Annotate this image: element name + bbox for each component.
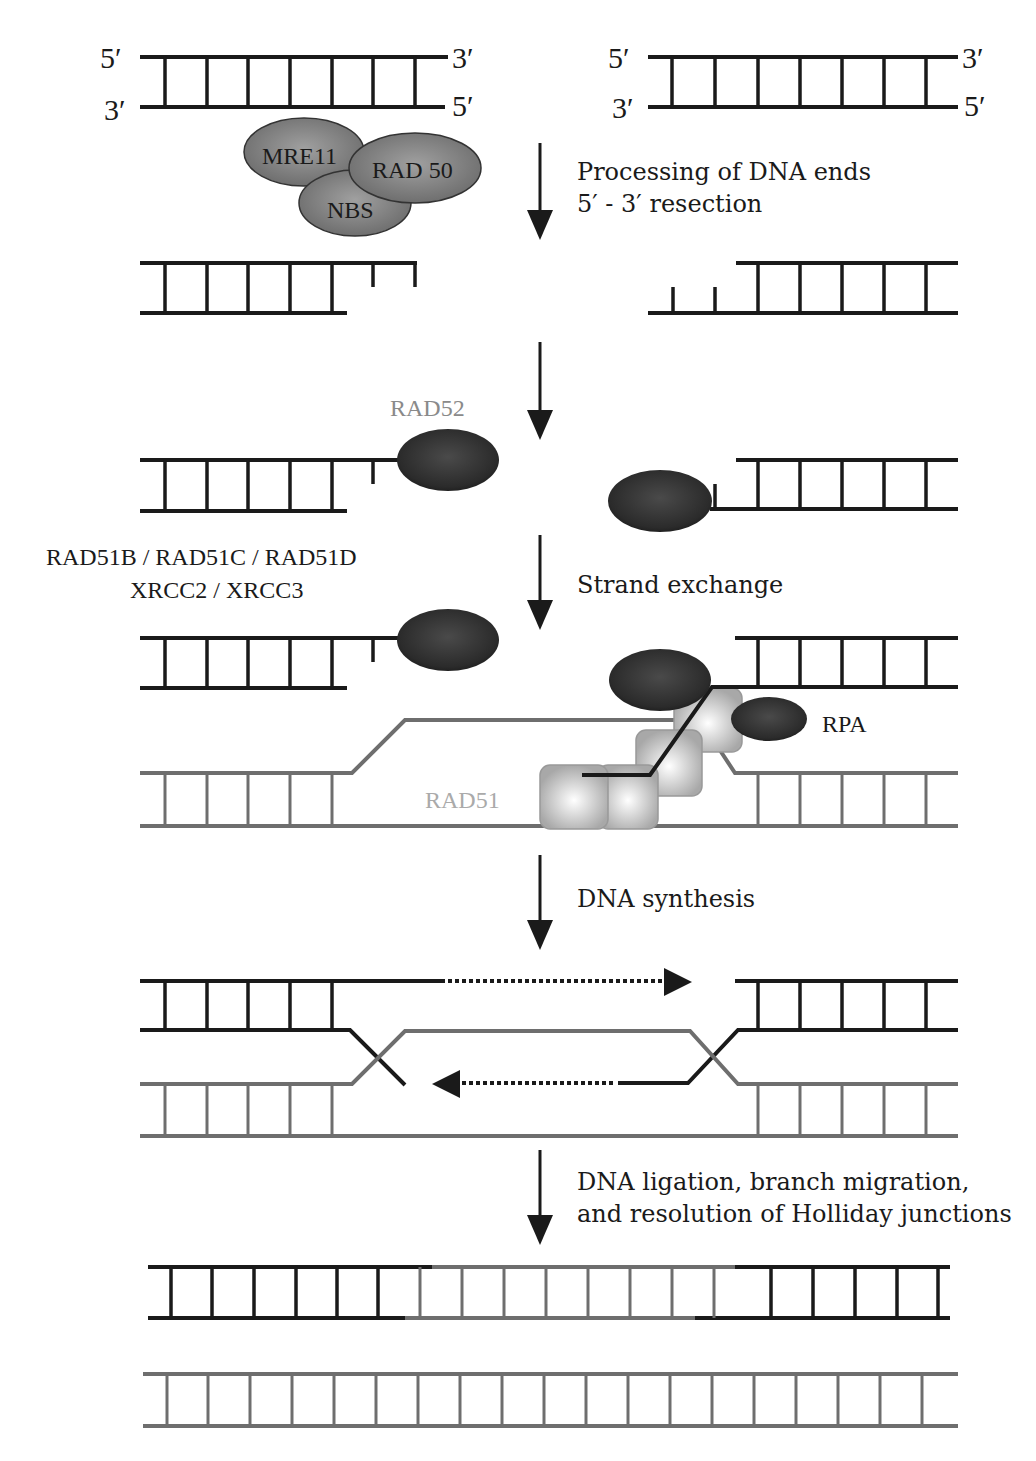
- rad52-protein-invasion-right: [609, 649, 711, 711]
- rad51-paralogs-label-2: XRCC2 / XRCC3: [130, 577, 303, 603]
- step-resection-label-1: Processing of DNA ends: [577, 158, 871, 186]
- rad51-filament: [540, 688, 742, 829]
- rpa-label: RPA: [822, 711, 867, 737]
- rad51-paralogs-label-1: RAD51B / RAD51C / RAD51D: [46, 544, 357, 570]
- left-top-3prime-label: 3′: [452, 41, 474, 74]
- left-duplex: [140, 57, 448, 107]
- right-top-3prime-label: 3′: [962, 41, 984, 74]
- step-resection-label-2: 5′ - 3′ resection: [577, 190, 762, 218]
- left-crossover-black: [140, 1030, 405, 1085]
- hr-repair-diagram: 5′ 3′ 3′ 5′ 5′ 3′ 3′ 5′ MRE: [0, 0, 1036, 1461]
- nbs-label: NBS: [327, 197, 374, 223]
- left-bottom-3prime-label: 3′: [104, 93, 126, 126]
- step-strand-exchange-label: Strand exchange: [577, 571, 783, 599]
- step-resolution-label-2: and resolution of Holliday junctions: [577, 1200, 1012, 1228]
- rad52-protein-left: [397, 429, 499, 491]
- right-top-5prime-label: 5′: [608, 41, 630, 74]
- step-resolution-label-1: DNA ligation, branch migration,: [577, 1168, 969, 1196]
- left-bottom-5prime-label: 5′: [452, 89, 474, 122]
- mre11-label: MRE11: [262, 143, 337, 169]
- left-top-5prime-label: 5′: [100, 41, 122, 74]
- right-bottom-5prime-label: 5′: [964, 89, 986, 122]
- step-arrow-dna-synthesis: [527, 855, 553, 950]
- synthesis-arrowhead-left: [432, 1070, 460, 1098]
- right-bottom-3prime-label: 3′: [612, 91, 634, 124]
- stage-5-dna-synthesis: [140, 968, 958, 1136]
- stage-6-repaired-duplexes: [143, 1267, 958, 1426]
- step-arrow-resection: [527, 143, 553, 240]
- rad52-label: RAD52: [390, 395, 465, 421]
- rad52-protein-right: [608, 470, 712, 532]
- step-arrow-resolution: [527, 1150, 553, 1245]
- step-dna-synthesis-label: DNA synthesis: [577, 885, 755, 913]
- rpa-protein: [731, 697, 807, 741]
- stage-2-resected-ends: [140, 263, 958, 313]
- right-duplex: [648, 57, 958, 107]
- template-strand-top: [140, 1031, 958, 1084]
- step-arrow-rad52: [527, 342, 553, 440]
- mrn-complex: MRE11 RAD 50 NBS: [244, 118, 481, 236]
- rad52-protein-invasion: [397, 609, 499, 671]
- synthesis-arrowhead-right: [664, 968, 692, 996]
- stage-4-strand-invasion: RAD51 RPA: [140, 609, 958, 829]
- step-arrow-strand-exchange: [527, 535, 553, 630]
- rad51-label: RAD51: [425, 787, 500, 813]
- stage-1-broken-ends: 5′ 3′ 3′ 5′ 5′ 3′ 3′ 5′ MRE: [100, 41, 986, 236]
- right-crossover-black: [618, 1030, 958, 1083]
- rad50-label: RAD 50: [372, 157, 453, 183]
